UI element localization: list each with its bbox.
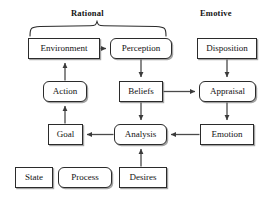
- group-label-emotive: Emotive: [200, 8, 232, 18]
- rational-brace: [30, 22, 166, 37]
- node-goal[interactable]: Goal: [48, 124, 83, 145]
- node-analysis[interactable]: Analysis: [114, 124, 167, 145]
- node-disposition[interactable]: Disposition: [197, 38, 257, 59]
- node-desires[interactable]: Desires: [119, 167, 167, 188]
- node-disposition-label: Disposition: [206, 44, 248, 53]
- node-action-label: Action: [53, 87, 78, 96]
- legend-node-process-label: Process: [71, 173, 99, 182]
- node-appraisal[interactable]: Appraisal: [199, 81, 256, 102]
- legend-node-process[interactable]: Process: [58, 167, 112, 188]
- node-analysis-label: Analysis: [125, 130, 157, 139]
- legend-node-state-label: State: [25, 173, 43, 182]
- node-beliefs[interactable]: Beliefs: [119, 81, 163, 102]
- node-desires-label: Desires: [130, 173, 157, 182]
- diagram-canvas: Rational Emotive Environment Perception …: [0, 0, 270, 204]
- legend-node-state[interactable]: State: [15, 167, 53, 188]
- node-appraisal-label: Appraisal: [210, 87, 245, 96]
- node-emotion-label: Emotion: [212, 130, 243, 139]
- node-action[interactable]: Action: [43, 81, 87, 102]
- group-label-rational: Rational: [71, 8, 104, 18]
- node-environment[interactable]: Environment: [28, 38, 100, 59]
- node-environment-label: Environment: [41, 44, 88, 53]
- node-perception[interactable]: Perception: [110, 38, 172, 59]
- node-perception-label: Perception: [122, 44, 161, 53]
- node-goal-label: Goal: [57, 130, 75, 139]
- node-beliefs-label: Beliefs: [128, 87, 154, 96]
- node-emotion[interactable]: Emotion: [200, 124, 254, 145]
